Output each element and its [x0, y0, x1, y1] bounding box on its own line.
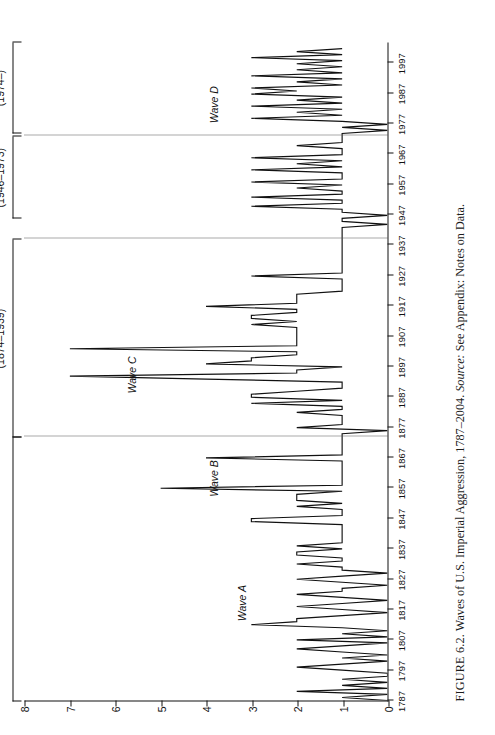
caption-source-text: See Appendix: Notes on Data. — [452, 204, 466, 351]
x-axis-tick — [387, 699, 393, 700]
x-axis-label-1897: 1897 — [396, 355, 405, 379]
x-axis-label-1967: 1967 — [396, 142, 405, 166]
x-axis-label-1947: 1947 — [396, 203, 405, 227]
x-axis-tick — [387, 274, 393, 275]
y-axis-label-3: 3 — [247, 706, 257, 726]
series-line-0 — [69, 48, 387, 700]
era-bracket-rail-maturity — [12, 136, 13, 218]
x-axis-label-1927: 1927 — [396, 264, 405, 288]
x-axis-label-1827: 1827 — [396, 568, 405, 592]
y-axis-label-8: 8 — [19, 706, 29, 726]
y-axis-label-4: 4 — [201, 706, 211, 726]
x-axis-tick — [387, 243, 393, 244]
era-bracket-cap-decline-end — [12, 41, 21, 42]
x-axis-label-1977: 1977 — [396, 112, 405, 136]
x-axis-label-1797: 1797 — [396, 659, 405, 683]
rotated-figure-frame: 012345678 178717971807181718271837184718… — [0, 0, 495, 735]
x-axis-label-1787: 1787 — [396, 689, 405, 713]
x-axis-tick — [387, 335, 393, 336]
caption-source-label: Source: — [452, 354, 466, 391]
x-axis-tick — [387, 426, 393, 427]
y-axis-label-1: 1 — [338, 706, 348, 726]
era-bracket-cap-long-ascent-start — [12, 700, 21, 701]
y-axis-tick — [388, 700, 389, 706]
x-axis-tick — [387, 183, 393, 184]
x-axis-label-1877: 1877 — [396, 416, 405, 440]
x-axis-label-1907: 1907 — [396, 325, 405, 349]
era-separator-1939 — [24, 237, 387, 238]
era-label-decline: Decline(1974–) — [0, 42, 5, 133]
y-axis-tick — [206, 700, 207, 706]
era-label-years-maturity: (1946–1973) — [0, 136, 5, 218]
era-bracket-rail-decline — [12, 42, 13, 133]
x-axis-label-1807: 1807 — [396, 628, 405, 652]
x-axis-tick — [387, 486, 393, 487]
era-bracket-cap-maturity-start — [12, 217, 21, 218]
x-axis-label-1987: 1987 — [396, 82, 405, 106]
x-axis-tick — [387, 669, 393, 670]
era-bracket-cap-maturity-end — [12, 135, 21, 136]
era-bracket-rail-long-ascent — [12, 437, 13, 701]
era-bracket-cap-decline-start — [12, 132, 21, 133]
era-label-maturity: Maturity(1946–1973) — [0, 136, 5, 218]
caption-main: Waves of U.S. Imperial Aggression, 1787–… — [452, 394, 466, 630]
era-bracket-rail-ascent — [12, 239, 13, 436]
x-axis-tick — [387, 608, 393, 609]
y-axis-tick — [252, 700, 253, 706]
y-axis-tick — [161, 700, 162, 706]
x-axis-tick — [387, 517, 393, 518]
x-axis-tick — [387, 122, 393, 123]
x-axis-label-1917: 1917 — [396, 294, 405, 318]
y-axis-label-7: 7 — [65, 706, 75, 726]
aggression-line-series — [24, 42, 387, 700]
era-label-ascent: Ascent(1874–1939) — [0, 239, 5, 436]
x-axis-tick — [387, 304, 393, 305]
x-axis-tick — [387, 152, 393, 153]
x-axis-tick — [387, 578, 393, 579]
x-axis-label-1857: 1857 — [396, 476, 405, 500]
y-axis-tick — [115, 700, 116, 706]
x-axis-tick — [387, 213, 393, 214]
y-axis-label-2: 2 — [292, 706, 302, 726]
era-bracket-cap-ascent-end — [12, 238, 21, 239]
y-axis-tick — [343, 700, 344, 706]
era-label-years-ascent: (1874–1939) — [0, 239, 5, 436]
era-separator-1874 — [24, 435, 387, 436]
figure-page: 012345678 178717971807181718271837184718… — [0, 0, 495, 735]
wave-d-label: Wave D — [208, 86, 219, 123]
y-axis-label-5: 5 — [156, 706, 166, 726]
x-axis-tick — [387, 547, 393, 548]
x-axis-label-1997: 1997 — [396, 51, 405, 75]
x-axis-tick — [387, 92, 393, 93]
x-axis-tick — [387, 365, 393, 366]
x-axis-label-1957: 1957 — [396, 173, 405, 197]
plot-area: 012345678 — [24, 42, 388, 701]
y-axis-tick — [70, 700, 71, 706]
x-axis-label-1837: 1837 — [396, 537, 405, 561]
x-axis-label-1887: 1887 — [396, 385, 405, 409]
wave-b-label: Wave B — [208, 460, 219, 497]
y-axis-tick — [297, 700, 298, 706]
y-axis-label-0: 0 — [383, 706, 393, 726]
x-axis-label-1937: 1937 — [396, 233, 405, 257]
y-axis-label-6: 6 — [110, 706, 120, 726]
era-separator-1973 — [24, 134, 387, 135]
era-label-years-decline: (1974–) — [0, 42, 5, 133]
wave-c-label: Wave C — [126, 356, 137, 393]
x-axis-label-1817: 1817 — [396, 598, 405, 622]
x-axis-tick — [387, 456, 393, 457]
x-axis-tick — [387, 638, 393, 639]
x-axis-tick — [387, 61, 393, 62]
figure-caption: FIGURE 6.2. Waves of U.S. Imperial Aggre… — [452, 36, 466, 701]
y-axis-tick — [24, 700, 25, 706]
figure-number: FIGURE 6.2. — [452, 633, 466, 701]
x-axis-label-1867: 1867 — [396, 446, 405, 470]
figure-body: 012345678 178717971807181718271837184718… — [0, 0, 495, 735]
x-axis-tick — [387, 395, 393, 396]
wave-a-label: Wave A — [236, 585, 247, 621]
era-bracket-cap-ascent-start — [12, 436, 21, 437]
x-axis-label-1847: 1847 — [396, 507, 405, 531]
